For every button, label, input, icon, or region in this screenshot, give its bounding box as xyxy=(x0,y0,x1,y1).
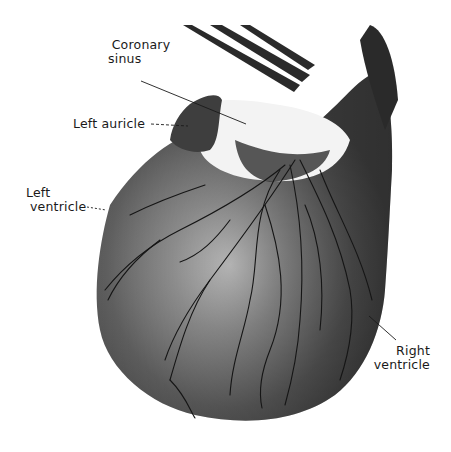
right-ventricle-label-line1: Right xyxy=(355,344,430,358)
left-ventricle-label-line1: Left xyxy=(26,186,86,200)
coronary-sinus-label-line1: Coronary xyxy=(98,38,184,52)
left-ventricle-label-line2: ventricle xyxy=(30,200,86,214)
right-ventricle-label-line2: ventricle xyxy=(355,358,430,372)
left-auricle-label: Left auricle xyxy=(73,117,145,131)
left-ventricle-leader xyxy=(87,207,106,210)
coronary-sinus-label-line2: sinus xyxy=(98,52,184,66)
left-ventricle-label: Left ventricle xyxy=(26,186,86,214)
coronary-sinus-label: Coronary sinus xyxy=(98,38,184,66)
right-ventricle-label: Right ventricle xyxy=(355,344,430,372)
heart-illustration xyxy=(0,0,451,452)
